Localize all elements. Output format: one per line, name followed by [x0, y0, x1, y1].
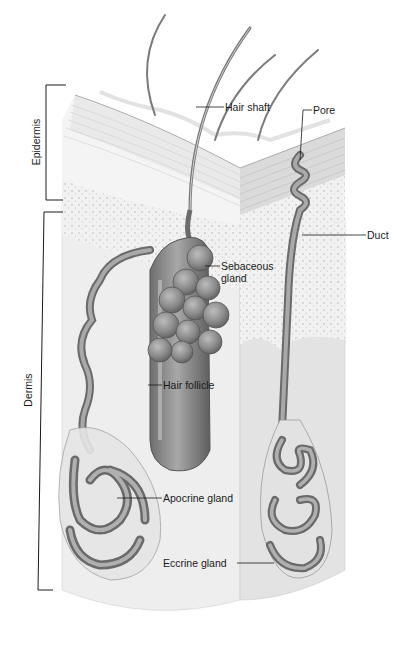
dermis-label: Dermis	[22, 370, 34, 410]
sebaceous-gland-label-line2: gland	[221, 272, 247, 284]
dermis-bracket	[38, 212, 63, 590]
duct-label: Duct	[367, 229, 389, 241]
pore-label: Pore	[313, 104, 335, 116]
epidermis-label: Epidermis	[30, 114, 42, 170]
apocrine-gland-label: Apocrine gland	[163, 492, 233, 504]
hair-shaft-label: Hair shaft	[225, 101, 270, 113]
skin-diagram	[0, 0, 419, 645]
hair-follicle-label: Hair follicle	[163, 379, 214, 391]
sebaceous-gland-label-line1: Sebaceous	[221, 260, 274, 272]
eccrine-gland-label: Eccrine gland	[163, 557, 227, 569]
